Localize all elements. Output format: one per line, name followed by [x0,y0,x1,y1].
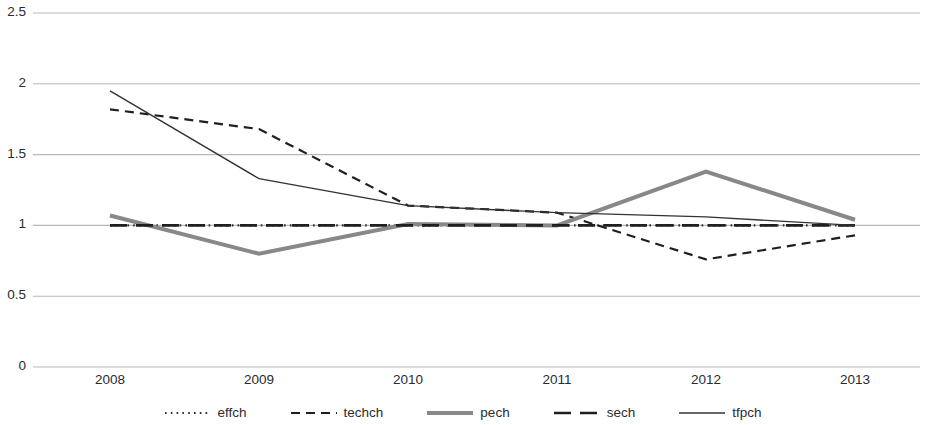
x-tick-label: 2008 [70,372,150,387]
legend-item-pech[interactable]: pech [427,405,509,420]
line-chart: 2.521.510.50 200820092010201120122013 ef… [0,0,926,425]
y-tick-label: 2.5 [0,4,26,19]
y-tick-label: 0.5 [0,287,26,302]
legend-swatch-sech [554,407,600,419]
legend-swatch-techch [291,407,337,419]
legend-item-sech[interactable]: sech [554,405,636,420]
y-tick-label: 1.5 [0,146,26,161]
legend-label: tfpch [732,405,761,420]
x-tick-label: 2011 [517,372,597,387]
legend-swatch-pech [427,407,473,419]
y-tick-label: 0 [0,358,26,373]
x-tick-label: 2013 [815,372,895,387]
legend-swatch-tfpch [679,407,725,419]
y-tick-label: 2 [0,75,26,90]
legend-item-techch[interactable]: techch [291,405,384,420]
chart-legend: effchtechchpechsechtfpch [0,400,926,425]
legend-label: pech [480,405,509,420]
y-tick-label: 1 [0,216,26,231]
gridlines [33,13,920,367]
legend-label: techch [344,405,384,420]
legend-swatch-effch [165,407,211,419]
legend-item-tfpch[interactable]: tfpch [679,405,761,420]
x-tick-label: 2010 [368,372,448,387]
legend-label: sech [607,405,636,420]
x-tick-label: 2012 [666,372,746,387]
series-line-pech [110,172,855,254]
legend-label: effch [218,405,247,420]
series-line-tfpch [110,91,855,226]
legend-item-effch[interactable]: effch [165,405,247,420]
plot-area [0,0,926,425]
series-lines [110,91,855,260]
x-tick-label: 2009 [219,372,299,387]
